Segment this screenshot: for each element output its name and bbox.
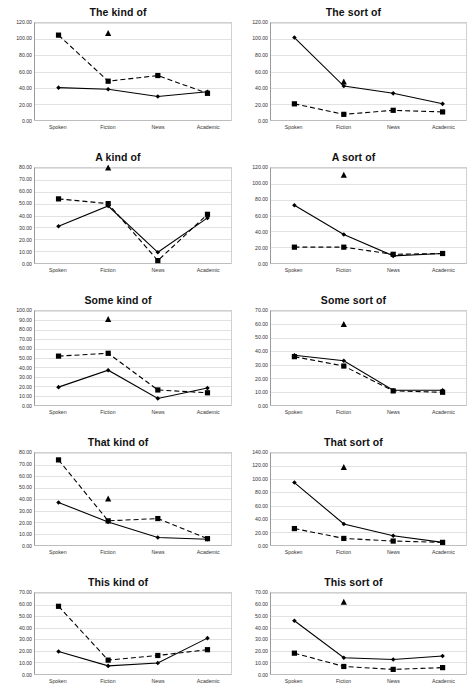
data-point-square — [391, 108, 396, 113]
y-axis-tick: 10.00 — [19, 393, 32, 399]
y-axis-tick: 10.00 — [19, 249, 32, 255]
x-axis: SpokenFictionNewsAcademic — [34, 677, 232, 695]
x-axis-tick: Academic — [432, 549, 455, 555]
data-point-square — [155, 653, 160, 658]
x-axis: SpokenFictionNewsAcademic — [34, 123, 232, 141]
data-point-diamond — [342, 232, 347, 237]
y-axis-tick: 30.00 — [255, 362, 268, 368]
data-point-diamond — [106, 368, 111, 373]
y-axis-tick: 40.00 — [19, 85, 32, 91]
y-axis-tick: 80.00 — [19, 52, 32, 58]
y-axis-tick: 70.00 — [19, 176, 32, 182]
data-point-square — [106, 518, 111, 523]
y-axis-tick: 40.00 — [255, 85, 268, 91]
data-point-square — [440, 540, 445, 545]
x-axis: SpokenFictionNewsAcademic — [270, 408, 467, 426]
chart-title: The sort of — [236, 6, 471, 18]
plot-area: 0.0010.0020.0030.0040.0050.0060.0070.008… — [0, 452, 232, 568]
y-axis-tick: 120.00 — [252, 164, 268, 170]
data-point-square — [391, 252, 396, 257]
data-point-diamond — [440, 654, 445, 659]
y-axis-tick: 80.00 — [255, 196, 268, 202]
y-axis-tick: 50.00 — [19, 200, 32, 206]
y-axis-tick: 70.00 — [255, 307, 268, 313]
y-axis: 0.0010.0020.0030.0040.0050.0060.0070.008… — [0, 167, 34, 264]
y-axis-tick: 60.00 — [255, 601, 268, 607]
data-point-square — [205, 647, 210, 652]
data-point-square — [155, 258, 160, 263]
data-point-square — [440, 390, 445, 395]
marker-layer — [35, 453, 231, 545]
y-axis: 0.0020.0040.0060.0080.00100.00120.00140.… — [236, 452, 270, 546]
data-point-diamond — [292, 35, 297, 40]
data-point-square — [56, 196, 61, 201]
x-axis-tick: Academic — [197, 124, 220, 130]
y-axis-tick: 100.00 — [252, 180, 268, 186]
plot-canvas — [34, 452, 232, 546]
gridline — [35, 405, 231, 406]
x-axis: SpokenFictionNewsAcademic — [270, 123, 467, 141]
y-axis-tick: 10.00 — [255, 389, 268, 395]
gridline — [35, 263, 231, 264]
data-point-diamond — [205, 636, 210, 641]
y-axis-tick: 140.00 — [252, 449, 268, 455]
y-axis-tick: 30.00 — [255, 636, 268, 642]
plot-area: 0.0020.0040.0060.0080.00100.00120.00Spok… — [0, 22, 232, 143]
data-point-square — [440, 251, 445, 256]
x-axis-tick: News — [387, 678, 400, 684]
x-axis-tick: Academic — [432, 409, 455, 415]
chart-panel-the-sort-of: The sort of0.0020.0040.0060.0080.00100.0… — [236, 0, 471, 145]
data-point-diamond — [156, 396, 161, 401]
data-point-square — [341, 112, 346, 117]
data-point-diamond — [391, 534, 396, 539]
y-axis-tick: 90.00 — [19, 317, 32, 323]
gridline — [271, 405, 466, 406]
y-axis-tick: 30.00 — [19, 508, 32, 514]
plot-canvas — [34, 167, 232, 264]
y-axis-tick: 20.00 — [255, 376, 268, 382]
plot-area: 0.0010.0020.0030.0040.0050.0060.0070.00S… — [236, 310, 467, 428]
data-point-square — [341, 363, 346, 368]
data-point-square — [341, 664, 346, 669]
y-axis: 0.0010.0020.0030.0040.0050.0060.0070.008… — [0, 452, 34, 546]
x-axis: SpokenFictionNewsAcademic — [270, 677, 467, 695]
x-axis-tick: Spoken — [49, 678, 67, 684]
y-axis: 0.0020.0040.0060.0080.00100.00120.00 — [0, 22, 34, 121]
x-axis-tick: News — [387, 267, 400, 273]
y-axis-tick: 60.00 — [19, 601, 32, 607]
x-axis-tick: Academic — [197, 409, 220, 415]
marker-layer — [271, 168, 466, 263]
chart-panel-that-kind-of: That kind of0.0010.0020.0030.0040.0050.0… — [0, 430, 236, 570]
data-point-square — [155, 73, 160, 78]
x-axis: SpokenFictionNewsAcademic — [34, 548, 232, 566]
y-axis-tick: 80.00 — [255, 52, 268, 58]
marker-layer — [35, 168, 231, 263]
data-point-diamond — [156, 94, 161, 99]
chart-title: The kind of — [0, 6, 236, 18]
y-axis-tick: 0.00 — [22, 403, 32, 409]
data-point-square — [341, 245, 346, 250]
x-axis-tick: Academic — [432, 124, 455, 130]
chart-panel-a-kind-of: A kind of0.0010.0020.0030.0040.0050.0060… — [0, 145, 236, 288]
plot-area: 0.0020.0040.0060.0080.00100.00120.00Spok… — [236, 22, 467, 143]
data-point-diamond — [106, 664, 111, 669]
chart-title: A sort of — [236, 151, 471, 163]
x-axis-tick: Fiction — [100, 549, 115, 555]
data-point-triangle — [105, 496, 111, 502]
data-point-square — [106, 201, 111, 206]
y-axis: 0.0010.0020.0030.0040.0050.0060.0070.00 — [236, 310, 270, 406]
chart-panel-this-kind-of: This kind of0.0010.0020.0030.0040.0050.0… — [0, 570, 236, 699]
plot-area: 0.0010.0020.0030.0040.0050.0060.0070.00S… — [236, 592, 467, 697]
data-point-square — [205, 212, 210, 217]
chart-panel-that-sort-of: That sort of0.0020.0040.0060.0080.00100.… — [236, 430, 471, 570]
x-axis-tick: Spoken — [285, 678, 303, 684]
y-axis-tick: 50.00 — [19, 355, 32, 361]
data-point-diamond — [391, 657, 396, 662]
y-axis-tick: 0.00 — [22, 118, 32, 124]
x-axis-tick: Fiction — [100, 124, 115, 130]
chart-title: This sort of — [236, 576, 471, 588]
y-axis-tick: 100.00 — [252, 35, 268, 41]
plot-area: 0.0010.0020.0030.0040.0050.0060.0070.00S… — [0, 592, 232, 697]
data-point-diamond — [156, 661, 161, 666]
x-axis-tick: Fiction — [336, 678, 351, 684]
